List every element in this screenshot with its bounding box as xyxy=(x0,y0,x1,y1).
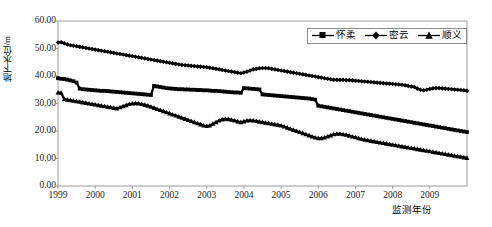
marker-diamond xyxy=(465,89,470,94)
legend-item-顺义: 顺义 xyxy=(418,30,462,41)
legend: 怀柔密云顺义 xyxy=(307,28,467,44)
legend-marker-triangle xyxy=(418,31,440,40)
marker-square xyxy=(239,91,243,95)
legend-item-密云: 密云 xyxy=(365,30,409,41)
legend-item-怀柔: 怀柔 xyxy=(312,30,356,41)
marker-square xyxy=(149,93,153,97)
legend-marker-square xyxy=(312,31,334,40)
series-2 xyxy=(56,40,470,93)
groundwater-level-chart: 地下水位/m 60.0050.0040.0030.0020.0010.000.0… xyxy=(0,0,492,227)
legend-label: 密云 xyxy=(389,30,409,41)
series-3 xyxy=(56,90,470,160)
legend-label: 怀柔 xyxy=(336,30,356,41)
marker-square xyxy=(75,81,79,85)
legend-marker-diamond xyxy=(365,31,387,40)
marker-square xyxy=(313,98,317,102)
marker-square xyxy=(465,130,469,134)
legend-label: 顺义 xyxy=(442,30,462,41)
marker-square xyxy=(258,88,262,92)
plot-frame xyxy=(58,21,467,186)
